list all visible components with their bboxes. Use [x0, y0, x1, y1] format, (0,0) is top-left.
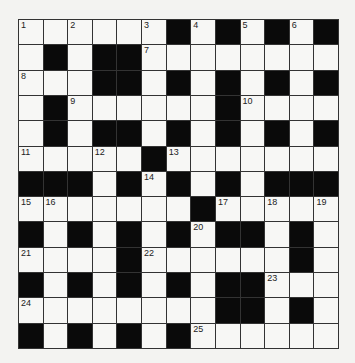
crossword-cell[interactable]	[117, 298, 141, 322]
crossword-cell[interactable]	[44, 20, 68, 44]
crossword-cell[interactable]	[93, 20, 117, 44]
crossword-cell[interactable]	[142, 324, 166, 348]
crossword-cell[interactable]	[68, 121, 92, 145]
crossword-cell[interactable]	[265, 96, 289, 120]
crossword-cell[interactable]	[314, 273, 338, 297]
crossword-cell[interactable]: 22	[142, 248, 166, 272]
crossword-cell[interactable]	[191, 71, 215, 95]
crossword-cell[interactable]: 6	[290, 20, 314, 44]
crossword-cell[interactable]	[191, 248, 215, 272]
crossword-cell[interactable]: 12	[93, 147, 117, 171]
crossword-cell[interactable]	[191, 298, 215, 322]
crossword-cell[interactable]	[290, 71, 314, 95]
crossword-cell[interactable]	[93, 298, 117, 322]
crossword-cell[interactable]	[44, 324, 68, 348]
crossword-cell[interactable]	[68, 298, 92, 322]
crossword-cell[interactable]	[117, 20, 141, 44]
crossword-cell[interactable]	[241, 172, 265, 196]
crossword-cell[interactable]: 17	[216, 197, 240, 221]
crossword-cell[interactable]	[167, 45, 191, 69]
crossword-cell[interactable]: 4	[191, 20, 215, 44]
crossword-cell[interactable]	[44, 147, 68, 171]
crossword-cell[interactable]: 23	[265, 273, 289, 297]
crossword-cell[interactable]	[191, 45, 215, 69]
crossword-cell[interactable]	[290, 197, 314, 221]
crossword-cell[interactable]	[265, 324, 289, 348]
crossword-cell[interactable]	[68, 71, 92, 95]
crossword-cell[interactable]	[241, 197, 265, 221]
crossword-cell[interactable]: 13	[167, 147, 191, 171]
crossword-cell[interactable]	[314, 324, 338, 348]
crossword-cell[interactable]	[290, 147, 314, 171]
crossword-cell[interactable]	[216, 324, 240, 348]
crossword-cell[interactable]	[265, 45, 289, 69]
crossword-cell[interactable]	[290, 324, 314, 348]
crossword-cell[interactable]	[314, 45, 338, 69]
crossword-cell[interactable]	[44, 222, 68, 246]
crossword-cell[interactable]: 18	[265, 197, 289, 221]
crossword-cell[interactable]	[142, 71, 166, 95]
crossword-cell[interactable]	[44, 248, 68, 272]
crossword-cell[interactable]	[314, 248, 338, 272]
crossword-cell[interactable]	[68, 45, 92, 69]
crossword-cell[interactable]	[290, 121, 314, 145]
crossword-cell[interactable]: 8	[19, 71, 43, 95]
crossword-cell[interactable]	[142, 298, 166, 322]
crossword-cell[interactable]	[167, 248, 191, 272]
crossword-cell[interactable]: 21	[19, 248, 43, 272]
crossword-cell[interactable]: 14	[142, 172, 166, 196]
crossword-cell[interactable]: 1	[19, 20, 43, 44]
crossword-cell[interactable]	[68, 197, 92, 221]
crossword-cell[interactable]	[216, 147, 240, 171]
crossword-cell[interactable]	[167, 96, 191, 120]
crossword-cell[interactable]	[93, 172, 117, 196]
crossword-cell[interactable]	[241, 324, 265, 348]
crossword-cell[interactable]	[93, 273, 117, 297]
crossword-cell[interactable]	[167, 298, 191, 322]
crossword-cell[interactable]: 20	[191, 222, 215, 246]
crossword-cell[interactable]	[93, 197, 117, 221]
crossword-cell[interactable]	[314, 222, 338, 246]
crossword-cell[interactable]: 7	[142, 45, 166, 69]
crossword-cell[interactable]	[314, 96, 338, 120]
crossword-cell[interactable]	[44, 71, 68, 95]
crossword-cell[interactable]	[142, 222, 166, 246]
crossword-cell[interactable]: 2	[68, 20, 92, 44]
crossword-cell[interactable]	[19, 121, 43, 145]
crossword-cell[interactable]: 3	[142, 20, 166, 44]
crossword-cell[interactable]	[290, 45, 314, 69]
crossword-cell[interactable]	[241, 147, 265, 171]
crossword-cell[interactable]: 9	[68, 96, 92, 120]
crossword-cell[interactable]	[142, 273, 166, 297]
crossword-cell[interactable]: 24	[19, 298, 43, 322]
crossword-cell[interactable]	[142, 121, 166, 145]
crossword-cell[interactable]	[93, 324, 117, 348]
crossword-cell[interactable]: 16	[44, 197, 68, 221]
crossword-cell[interactable]	[68, 147, 92, 171]
crossword-cell[interactable]	[191, 147, 215, 171]
crossword-cell[interactable]	[44, 298, 68, 322]
crossword-cell[interactable]: 25	[191, 324, 215, 348]
crossword-cell[interactable]: 5	[241, 20, 265, 44]
crossword-cell[interactable]	[68, 248, 92, 272]
crossword-cell[interactable]	[241, 45, 265, 69]
crossword-cell[interactable]: 10	[241, 96, 265, 120]
crossword-cell[interactable]	[290, 96, 314, 120]
crossword-cell[interactable]	[93, 222, 117, 246]
crossword-cell[interactable]	[44, 273, 68, 297]
crossword-cell[interactable]	[265, 147, 289, 171]
crossword-cell[interactable]	[19, 96, 43, 120]
crossword-cell[interactable]	[241, 248, 265, 272]
crossword-cell[interactable]: 11	[19, 147, 43, 171]
crossword-cell[interactable]	[117, 147, 141, 171]
crossword-cell[interactable]	[167, 197, 191, 221]
crossword-cell[interactable]	[93, 96, 117, 120]
crossword-cell[interactable]: 19	[314, 197, 338, 221]
crossword-cell[interactable]	[142, 96, 166, 120]
crossword-cell[interactable]	[117, 197, 141, 221]
crossword-cell[interactable]	[241, 121, 265, 145]
crossword-cell[interactable]	[265, 222, 289, 246]
crossword-cell[interactable]	[241, 71, 265, 95]
crossword-cell[interactable]	[216, 45, 240, 69]
crossword-cell[interactable]	[191, 172, 215, 196]
